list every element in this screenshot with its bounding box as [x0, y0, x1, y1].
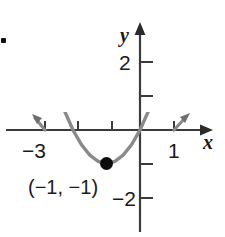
curve-left-arrowhead-icon [32, 114, 45, 130]
vertex-coordinate-label: (−1, −1) [28, 177, 98, 197]
curve-right-arrowhead-icon [174, 113, 190, 130]
x-tick-label-1: 1 [168, 140, 180, 161]
vertex-point-marker [100, 157, 113, 170]
y-tick-label-negative-2: −2 [112, 188, 136, 209]
y-axis-label: y [120, 25, 129, 45]
y-axis-arrowhead-icon [135, 22, 146, 35]
x-tick-label-negative-3: −3 [22, 140, 46, 161]
parabola-figure: y x 2 −2 −3 1 (−1, −1) [0, 0, 225, 237]
parabola-curve [24, 0, 188, 164]
x-axis-label: x [203, 132, 213, 152]
y-tick-label-2: 2 [119, 52, 131, 73]
